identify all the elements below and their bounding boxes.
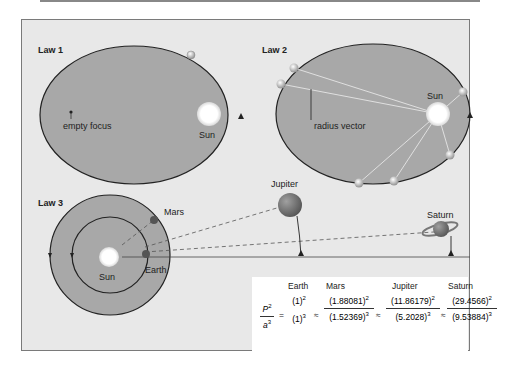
- approx-sign-3: ≈: [441, 310, 446, 320]
- jupiter-fraction: (11.86179)2 (5.2028)3: [386, 295, 440, 322]
- jupiter-term-label: Jupiter: [392, 281, 418, 291]
- jupiter-label: Jupiter: [271, 179, 298, 189]
- equals-sign: =: [279, 310, 284, 320]
- law3-sun: [99, 247, 119, 267]
- mars-term-label: Mars: [326, 281, 345, 291]
- earth-label: Earth: [145, 265, 167, 275]
- radius-vector-label: radius vector: [314, 121, 366, 131]
- law3-sun-label: Sun: [99, 272, 115, 282]
- law2-sun-label: Sun: [427, 91, 443, 101]
- saturn-term-label: Saturn: [448, 281, 473, 291]
- law1-sun-label: Sun: [199, 130, 215, 140]
- equation-box: P2 a3 = Earth (1)2 (1)3 ≈ Mars (1.88081)…: [252, 277, 468, 353]
- mars-label: Mars: [164, 207, 184, 217]
- approx-sign-1: ≈: [314, 310, 319, 320]
- law1-planet: [187, 51, 195, 59]
- approx-sign-2: ≈: [376, 310, 381, 320]
- law1-sun: [197, 102, 221, 126]
- law3-label: Law 3: [38, 198, 63, 208]
- earth-fraction: (1)2 (1)3: [288, 295, 310, 324]
- earth-term-label: Earth: [288, 281, 308, 291]
- jupiter-planet: [278, 193, 302, 217]
- earth-planet: [142, 250, 150, 258]
- law1-label: Law 1: [38, 45, 63, 55]
- lhs-fraction: P2 a3: [260, 303, 274, 330]
- mars-fraction: (1.88081)2 (1.52369)3: [324, 295, 374, 322]
- saturn-planet: [433, 221, 449, 237]
- empty-focus-label: empty focus: [63, 121, 112, 131]
- law2-label: Law 2: [262, 45, 287, 55]
- saturn-label: Saturn: [427, 210, 454, 220]
- saturn-fraction: (29.4566)2 (9.53884)3: [447, 295, 497, 322]
- law2-sun: [426, 102, 450, 126]
- mars-planet: [150, 216, 158, 224]
